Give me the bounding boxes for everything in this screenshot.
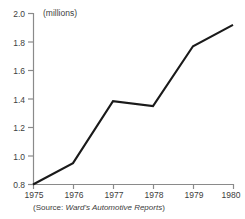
data-series-line <box>33 25 233 185</box>
y-axis-ticks <box>28 14 33 185</box>
y-tick-label-1-2: 1.2 <box>3 123 25 133</box>
source-suffix: ) <box>162 203 165 212</box>
x-tick-label-1978: 1978 <box>139 190 169 200</box>
source-title: Ward's Automotive Reports <box>65 203 162 212</box>
source-note: (Source: Ward's Automotive Reports) <box>33 203 165 212</box>
x-tick-label-1976: 1976 <box>59 190 89 200</box>
x-tick-label-1979: 1979 <box>179 190 209 200</box>
y-tick-label-1-6: 1.6 <box>3 66 25 76</box>
chart-plot-area <box>0 0 245 219</box>
source-prefix: (Source: <box>33 203 65 212</box>
y-tick-label-1-0: 1.0 <box>3 152 25 162</box>
y-tick-label-0-8: 0.8 <box>3 180 25 190</box>
line-chart: 2.0 1.8 1.6 1.4 1.2 1.0 0.8 1975 1976 19… <box>0 0 245 219</box>
x-tick-label-1975: 1975 <box>19 190 49 200</box>
x-tick-label-1977: 1977 <box>99 190 129 200</box>
y-tick-label-1-4: 1.4 <box>3 95 25 105</box>
y-tick-label-1-8: 1.8 <box>3 38 25 48</box>
y-axis-unit-label: (millions) <box>43 8 77 18</box>
y-tick-label-2-0: 2.0 <box>3 9 25 19</box>
x-tick-label-1980: 1980 <box>216 190 245 200</box>
